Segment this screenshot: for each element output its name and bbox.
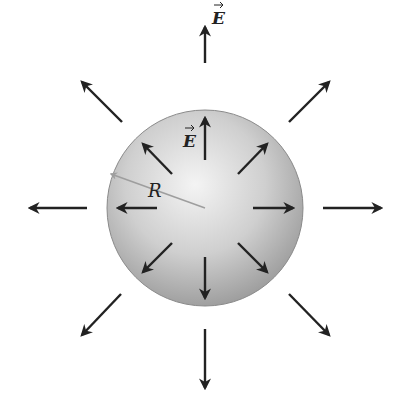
field-diagram-svg: R E E [0, 0, 399, 406]
svg-text:E: E [211, 8, 226, 28]
charged-sphere-field-diagram: R E E [0, 0, 399, 406]
field-arrow-icon [289, 82, 329, 122]
svg-text:E: E [182, 131, 197, 151]
radius-label: R [147, 180, 162, 201]
outer-field-label: E [211, 2, 226, 28]
field-arrow-icon [82, 294, 121, 335]
field-arrow-icon [289, 294, 329, 335]
field-arrow-icon [82, 82, 122, 122]
